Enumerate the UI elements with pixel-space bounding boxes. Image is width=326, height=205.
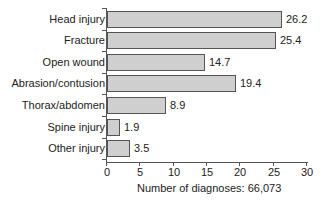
y-tick (102, 94, 106, 95)
category-label: Open wound (43, 56, 105, 69)
x-tick-label: 5 (128, 166, 152, 179)
y-tick (102, 159, 106, 160)
bar (107, 11, 282, 28)
bar (107, 32, 276, 49)
category-label: Thorax/abdomen (22, 99, 105, 112)
y-tick (102, 116, 106, 117)
bar-chart: Head injury26.2Fracture25.4Open wound14.… (0, 0, 326, 205)
bar (107, 97, 166, 114)
y-tick (102, 30, 106, 31)
value-label: 8.9 (170, 99, 185, 112)
value-label: 1.9 (124, 121, 139, 134)
category-label: Head injury (49, 13, 105, 26)
x-tick-label: 25 (262, 166, 286, 179)
category-label: Fracture (64, 34, 105, 47)
bar (107, 140, 130, 157)
value-label: 26.2 (286, 13, 307, 26)
category-label: Other injury (48, 142, 105, 155)
y-tick (102, 73, 106, 74)
bar (107, 54, 205, 71)
category-label: Spine injury (48, 121, 105, 134)
bar (107, 119, 120, 136)
x-tick-label: 30 (295, 166, 319, 179)
y-tick (102, 51, 106, 52)
value-label: 14.7 (209, 56, 230, 69)
value-label: 25.4 (280, 34, 301, 47)
y-tick (102, 8, 106, 9)
value-label: 19.4 (240, 77, 261, 90)
x-tick-label: 10 (162, 166, 186, 179)
value-label: 3.5 (134, 142, 149, 155)
x-axis (106, 162, 308, 163)
x-tick-label: 15 (195, 166, 219, 179)
bar (107, 75, 236, 92)
x-axis-title: Number of diagnoses: 66,073 (137, 182, 281, 195)
x-tick-label: 20 (228, 166, 252, 179)
x-tick-label: 0 (95, 166, 119, 179)
category-label: Abrasion/contusion (11, 77, 105, 90)
y-tick (102, 138, 106, 139)
